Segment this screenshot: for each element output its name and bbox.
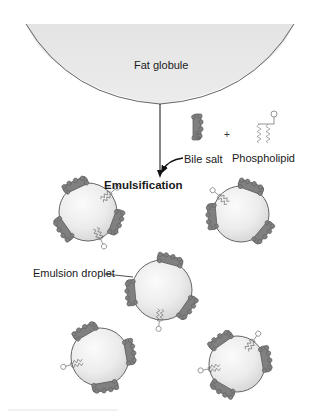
phospholipid-label: Phospholipid: [232, 153, 295, 164]
emulsion-droplet-4: [60, 319, 138, 395]
faint-caption-line: [8, 409, 118, 411]
emulsion-droplet-2: [205, 176, 277, 246]
emulsification-label: Emulsification: [104, 180, 183, 192]
bile-salt-icon: [192, 114, 204, 140]
emulsion-droplet-5: [197, 328, 274, 401]
emulsification-diagram: Fat globule Bile salt + Phospholipid Emu…: [0, 0, 314, 418]
emulsion-droplet-3: [124, 251, 200, 332]
plus-sign: +: [224, 130, 230, 140]
bile-salt-curved-arrow: [163, 158, 183, 170]
phospholipid-icon: [257, 111, 277, 143]
fat-globule-label: Fat globule: [134, 60, 188, 71]
bile-salt-label: Bile salt: [184, 154, 223, 165]
emulsion-droplet-label: Emulsion droplet: [33, 268, 115, 279]
